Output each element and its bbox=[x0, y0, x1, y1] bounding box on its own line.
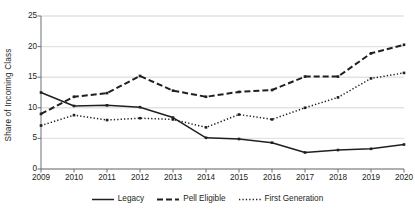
legend-item-first-generation[interactable]: First Generation bbox=[239, 194, 324, 204]
data-point bbox=[403, 72, 406, 75]
x-tick-label: 2020 bbox=[387, 173, 415, 183]
data-point bbox=[139, 106, 142, 109]
legend-swatch-dotted-icon bbox=[239, 196, 261, 203]
data-point bbox=[304, 75, 307, 78]
series-line-legacy bbox=[41, 93, 404, 153]
data-point bbox=[106, 119, 109, 122]
data-point bbox=[73, 114, 76, 117]
legend-label: Legacy bbox=[118, 194, 144, 204]
data-point bbox=[40, 91, 43, 94]
x-tick-label: 2013 bbox=[156, 173, 190, 183]
data-point bbox=[370, 148, 373, 151]
series-line-first-generation bbox=[41, 73, 404, 127]
data-point bbox=[370, 77, 373, 80]
data-point bbox=[238, 113, 241, 116]
legend-label: Pell Eligible bbox=[183, 194, 225, 204]
x-tick-label: 2012 bbox=[123, 173, 157, 183]
data-point bbox=[370, 52, 373, 55]
x-tick-label: 2011 bbox=[90, 173, 124, 183]
data-point bbox=[304, 151, 307, 154]
data-point bbox=[40, 124, 43, 127]
data-point bbox=[205, 136, 208, 139]
chart-legend: LegacyPell EligibleFirst Generation bbox=[0, 191, 415, 207]
data-point bbox=[337, 149, 340, 152]
data-point bbox=[238, 91, 241, 94]
data-point bbox=[172, 89, 175, 92]
legend-item-pell-eligible[interactable]: Pell Eligible bbox=[157, 194, 225, 204]
data-point bbox=[139, 75, 142, 78]
data-point bbox=[403, 143, 406, 146]
data-point bbox=[337, 96, 340, 99]
data-point bbox=[139, 117, 142, 120]
legend-swatch-solid-icon bbox=[92, 196, 114, 203]
x-tick-label: 2015 bbox=[222, 173, 256, 183]
data-point bbox=[238, 138, 241, 141]
data-point bbox=[271, 118, 274, 121]
legend-item-legacy[interactable]: Legacy bbox=[92, 194, 144, 204]
x-tick-label: 2018 bbox=[321, 173, 355, 183]
x-tick-label: 2016 bbox=[255, 173, 289, 183]
series-markers bbox=[40, 43, 406, 153]
x-tick-label: 2010 bbox=[57, 173, 91, 183]
data-point bbox=[304, 107, 307, 110]
data-point bbox=[205, 95, 208, 98]
series-lines bbox=[41, 45, 404, 153]
x-tick-label: 2014 bbox=[189, 173, 223, 183]
data-point bbox=[73, 95, 76, 98]
data-point bbox=[271, 89, 274, 92]
chart-container: Share of Incoming Class 0510152025 20092… bbox=[0, 0, 415, 211]
gridlines bbox=[41, 16, 404, 169]
data-point bbox=[337, 75, 340, 78]
data-point bbox=[106, 104, 109, 107]
data-point bbox=[403, 43, 406, 46]
legend-label: First Generation bbox=[265, 194, 324, 204]
data-point bbox=[73, 105, 76, 108]
data-point bbox=[205, 126, 208, 129]
series-line-pell-eligible bbox=[41, 45, 404, 114]
legend-swatch-dashed-icon bbox=[157, 196, 179, 203]
data-point bbox=[106, 92, 109, 95]
data-point bbox=[172, 118, 175, 121]
data-point bbox=[40, 113, 43, 116]
x-tick-label: 2009 bbox=[24, 173, 58, 183]
x-tick-label: 2019 bbox=[354, 173, 388, 183]
x-axis-tick-labels: 2009201020112012201320142015201620172018… bbox=[41, 173, 411, 187]
x-tick-label: 2017 bbox=[288, 173, 322, 183]
data-point bbox=[271, 141, 274, 144]
